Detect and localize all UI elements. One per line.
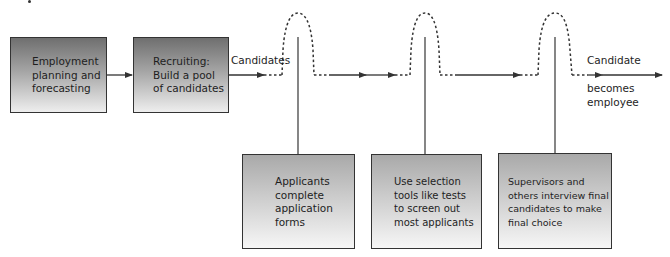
screen-application-forms-text: Applicants complete application forms: [275, 175, 333, 229]
outcome-label-bottom: becomes employee: [587, 82, 639, 109]
screen-selection-tools: Use selection tools like tests to screen…: [371, 154, 482, 249]
screen-interview-text: Supervisors and others interview final c…: [508, 175, 609, 229]
screen-selection-tools-text: Use selection tools like tests to screen…: [394, 175, 474, 229]
screen-interview: Supervisors and others interview final c…: [498, 153, 612, 249]
outcome-label-top: Candidate: [587, 54, 641, 68]
selection-process-diagram: Employment planning and forecasting Recr…: [0, 0, 670, 257]
candidates-label: Candidates: [231, 54, 290, 68]
screen-application-forms: Applicants complete application forms: [242, 154, 355, 249]
step-recruiting: Recruiting: Build a pool of candidates: [133, 37, 229, 113]
step-employment-planning: Employment planning and forecasting: [10, 37, 107, 113]
step-employment-planning-text: Employment planning and forecasting: [32, 55, 101, 96]
step-recruiting-text: Recruiting: Build a pool of candidates: [153, 55, 224, 96]
